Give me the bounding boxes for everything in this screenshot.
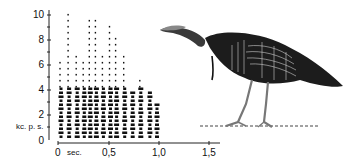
y-tick-label: 8 — [22, 35, 44, 45]
x-tick-label: 0,5 — [102, 148, 116, 158]
y-tick-label: 10 — [22, 10, 44, 20]
turkey-illustration — [160, 26, 343, 127]
x-tick-label: 1,5 — [202, 148, 216, 158]
figure: 10 8 6 4 2 kc. p. s. 0 0 sec. 0,5 1,0 1,… — [0, 0, 355, 162]
x-tick-label: 0 — [55, 148, 61, 158]
x-tick-label: 1,0 — [152, 148, 166, 158]
y-tick-label: 6 — [22, 60, 44, 70]
y-axis-unit-label: kc. p. s. — [16, 123, 44, 131]
x-axis-unit-label: sec. — [67, 149, 82, 157]
y-tick-label: 4 — [22, 85, 44, 95]
spectrogram-plot — [0, 0, 355, 162]
y-tick-label: 0 — [22, 136, 44, 146]
y-tick-label: 2 — [22, 110, 44, 120]
spectrogram-pulses — [59, 14, 160, 138]
